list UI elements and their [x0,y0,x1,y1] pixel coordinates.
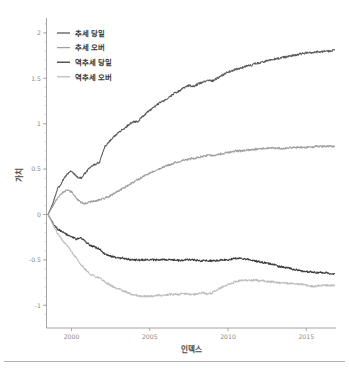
y-axis-title: 가치 [14,168,24,182]
y-tick-label: 1.5 [31,75,41,82]
y-tick-label: 0.5 [31,165,41,172]
y-tick-label: -1 [35,302,41,309]
series-line-2 [48,145,334,214]
legend-label-3: 역추세 당일 [75,58,113,67]
line-chart: 21.510.50-0.5-12000200520102015인덱스가치추세 당… [0,0,349,373]
y-tick-label: 1 [37,120,41,127]
series-line-4 [48,215,334,298]
y-axis: 21.510.50-0.5-1 [29,18,47,328]
chart-figure: 21.510.50-0.5-12000200520102015인덱스가치추세 당… [0,0,349,373]
series-group [48,49,334,297]
y-tick-label: 2 [37,29,41,36]
legend-label-2: 추세 오버 [75,43,106,52]
legend-label-1: 추세 당일 [75,29,106,38]
series-line-3 [48,215,334,275]
x-tick-label: 2005 [142,333,158,340]
x-tick-label: 2015 [298,333,314,340]
chart-legend: 추세 당일추세 오버역추세 당일역추세 오버 [57,29,112,82]
legend-label-4: 역추세 오버 [75,73,113,82]
x-tick-label: 2000 [64,333,80,340]
x-axis-title: 인덱스 [181,344,202,354]
x-tick-label: 2010 [220,333,236,340]
y-tick-label: -0.5 [29,256,41,263]
x-axis: 2000200520102015 [47,328,337,340]
y-tick-label: 0 [37,211,41,218]
